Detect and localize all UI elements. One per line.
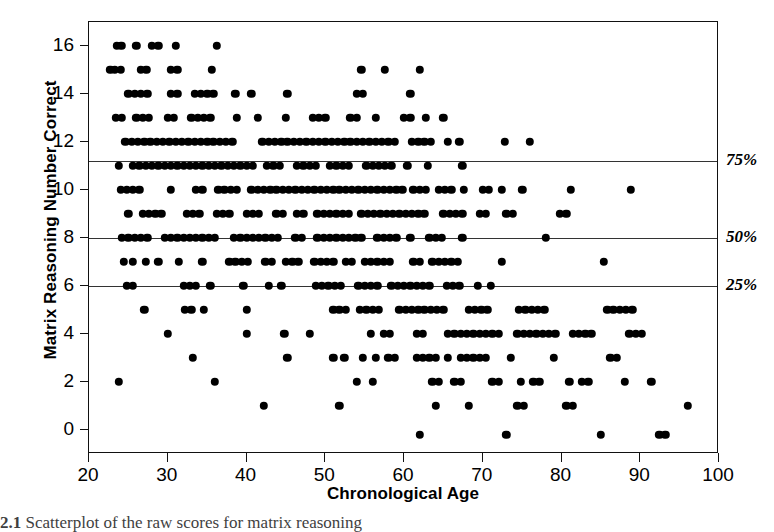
data-point: [516, 378, 524, 386]
x-tick-mark: [561, 453, 562, 462]
data-point: [416, 66, 424, 74]
percentile-label-50pct: 50%: [726, 227, 757, 247]
x-tick-label: 70: [452, 464, 512, 486]
data-point: [483, 306, 491, 314]
data-point: [398, 186, 406, 194]
data-point: [549, 354, 557, 362]
data-point: [274, 234, 282, 242]
data-point: [359, 354, 367, 362]
data-point: [305, 330, 313, 338]
data-point: [189, 354, 197, 362]
data-point: [267, 258, 275, 266]
data-point: [283, 90, 291, 98]
data-point: [124, 210, 132, 218]
data-point: [294, 258, 302, 266]
data-point: [627, 186, 635, 194]
data-point: [175, 258, 183, 266]
data-point: [453, 258, 461, 266]
data-point: [321, 114, 329, 122]
x-tick-label: 60: [373, 464, 433, 486]
data-point: [526, 138, 534, 146]
data-point: [562, 210, 570, 218]
data-point: [431, 354, 439, 362]
data-point: [275, 162, 283, 170]
data-point: [386, 258, 394, 266]
data-point: [460, 186, 468, 194]
data-point: [367, 330, 375, 338]
data-point: [170, 114, 178, 122]
data-point: [228, 138, 236, 146]
data-point: [438, 234, 446, 242]
data-point: [431, 402, 439, 410]
data-point: [661, 431, 669, 439]
data-point: [335, 402, 343, 410]
x-tick-mark: [403, 453, 404, 462]
data-point: [279, 210, 287, 218]
data-point: [444, 354, 452, 362]
data-point: [173, 90, 181, 98]
data-point: [519, 402, 527, 410]
data-point: [329, 354, 337, 362]
data-point: [406, 90, 414, 98]
data-point: [157, 210, 165, 218]
data-point: [253, 114, 261, 122]
data-point: [447, 186, 455, 194]
data-point: [486, 282, 494, 290]
data-point: [116, 66, 124, 74]
x-tick-mark: [167, 453, 168, 462]
data-point: [353, 378, 361, 386]
data-point: [386, 330, 394, 338]
x-tick-label: 30: [137, 464, 197, 486]
y-tick-label: 6: [36, 274, 74, 296]
data-point: [444, 138, 452, 146]
x-tick-mark: [88, 453, 89, 462]
data-point: [518, 186, 526, 194]
data-point: [497, 186, 505, 194]
x-tick-mark: [718, 453, 719, 462]
figure-scatterplot: Matrix Reasoning Number Correct 02468101…: [0, 0, 774, 532]
data-point: [129, 258, 137, 266]
figure-caption-number: 2.1: [0, 513, 21, 532]
x-tick-label: 50: [294, 464, 354, 486]
data-point: [422, 114, 430, 122]
x-axis-title: Chronological Age: [88, 484, 718, 504]
data-point: [638, 330, 646, 338]
data-point: [540, 306, 548, 314]
x-tick-mark: [324, 453, 325, 462]
data-point: [345, 210, 353, 218]
data-point: [587, 330, 595, 338]
data-point: [277, 282, 285, 290]
data-point: [242, 306, 250, 314]
data-point: [427, 138, 435, 146]
data-point: [464, 402, 472, 410]
data-point: [501, 138, 509, 146]
data-point: [167, 186, 175, 194]
x-tick-label: 20: [58, 464, 118, 486]
data-point: [502, 431, 510, 439]
data-point: [342, 306, 350, 314]
data-point: [508, 210, 516, 218]
data-point: [422, 186, 430, 194]
data-point: [390, 138, 398, 146]
percentile-label-75pct: 75%: [726, 150, 757, 170]
data-point: [329, 258, 337, 266]
data-point: [390, 354, 398, 362]
data-point: [264, 282, 272, 290]
data-point: [373, 282, 381, 290]
y-tick-label: 12: [36, 130, 74, 152]
data-point: [255, 210, 263, 218]
data-point: [456, 378, 464, 386]
y-tick-label: 4: [36, 322, 74, 344]
data-point: [371, 114, 379, 122]
data-point: [416, 258, 424, 266]
data-point: [260, 402, 268, 410]
data-point: [129, 282, 137, 290]
figure-caption: 2.1 Scatterplot of the raw scores for ma…: [0, 513, 774, 532]
y-tick-label: 10: [36, 178, 74, 200]
data-point: [132, 42, 140, 50]
data-point: [211, 234, 219, 242]
data-point: [195, 210, 203, 218]
data-point: [387, 162, 395, 170]
data-point: [143, 234, 151, 242]
data-point: [209, 90, 217, 98]
